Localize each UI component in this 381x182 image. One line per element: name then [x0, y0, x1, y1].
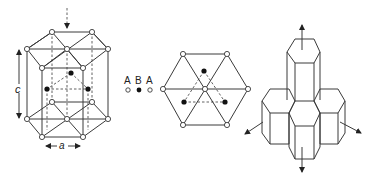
legend-open-atom: [148, 88, 152, 92]
stacking-top-view: [160, 51, 250, 127]
c-label: c: [15, 83, 21, 95]
legend-open-atom: [126, 88, 130, 92]
unit-cell-panel: c a: [15, 8, 111, 151]
legend-a2: A: [146, 75, 153, 86]
legend-filled-atom: [137, 88, 142, 93]
crystal-habit-panel: [245, 25, 361, 172]
b-layer-atoms: [44, 70, 90, 91]
hcp-structure-diagram: c a A B A: [0, 0, 381, 182]
growth-arrow-right-icon: [340, 122, 361, 133]
vertical-edges: [27, 49, 108, 137]
a-label: a: [59, 140, 65, 151]
hidden-edges: [47, 32, 92, 130]
legend-b: B: [135, 75, 142, 86]
legend-a1: A: [124, 75, 131, 86]
a-layer-atoms: [24, 29, 110, 139]
growth-arrow-left-icon: [245, 122, 263, 134]
stacking-legend: A B A: [124, 75, 153, 92]
